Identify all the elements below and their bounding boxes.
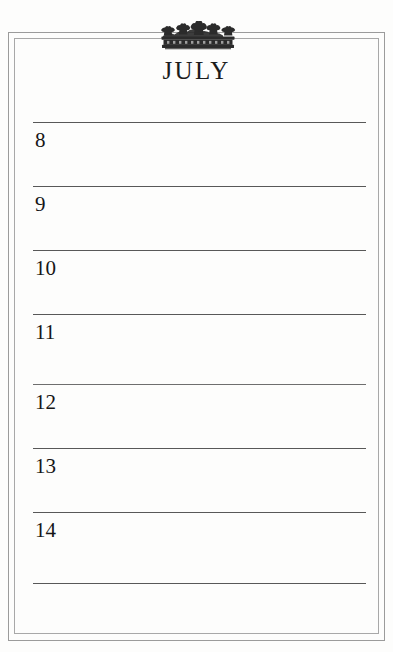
day-number: 8 [35,128,46,152]
day-number: 10 [35,256,56,280]
entry-rule [33,384,366,385]
planner-page: JULY 8 9 10 11 12 13 14 [0,0,393,652]
entry-lines: 8 9 10 11 12 13 14 [0,0,393,652]
entry-rule [33,186,366,187]
entry-rule [33,448,366,449]
entry-rule [33,250,366,251]
day-number: 13 [35,454,56,478]
day-number: 11 [35,320,55,344]
entry-rule [33,512,366,513]
day-number: 14 [35,518,56,542]
crown-icon [159,21,237,50]
entry-rule [33,122,366,123]
day-number: 9 [35,192,46,216]
day-number: 12 [35,390,56,414]
entry-rule [33,314,366,315]
closing-rule [33,583,366,584]
